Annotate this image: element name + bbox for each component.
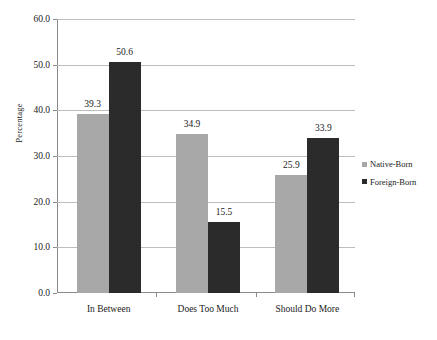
y-tick-mark (53, 293, 57, 294)
x-tick-mark (156, 293, 157, 297)
bar-value-label: 25.9 (283, 160, 300, 170)
gridline (57, 110, 355, 111)
x-tick-mark (354, 293, 355, 297)
bar-foreign-born (109, 62, 141, 293)
y-tick-label: 60.0 (33, 14, 50, 24)
y-tick-label: 20.0 (33, 197, 50, 207)
y-tick-label: 40.0 (33, 105, 50, 115)
chart-legend: Native-BornForeign-Born (362, 160, 416, 195)
x-axis-category-label: Does Too Much (178, 304, 239, 314)
y-tick-mark (53, 19, 57, 20)
bar-value-label: 50.6 (116, 47, 133, 57)
gridline (57, 19, 355, 20)
bar-value-label: 15.5 (216, 207, 233, 217)
bar-native-born (275, 175, 307, 293)
y-tick-label: 50.0 (33, 60, 50, 70)
bar-value-label: 33.9 (315, 123, 332, 133)
bar-value-label: 39.3 (84, 99, 101, 109)
bar-foreign-born (208, 222, 240, 293)
x-tick-mark (256, 293, 257, 297)
legend-square-marker (362, 179, 367, 184)
legend-label: Foreign-Born (370, 178, 416, 187)
bar-native-born (176, 134, 208, 293)
gridline (57, 65, 355, 66)
bar-chart: Percentage 0.010.020.030.040.050.060.0 3… (0, 0, 437, 340)
legend-label: Native-Born (370, 160, 413, 169)
y-axis-title: Percentage (14, 78, 24, 168)
y-tick-mark (53, 202, 57, 203)
x-axis-category-label: Should Do More (275, 304, 339, 314)
y-tick-mark (53, 65, 57, 66)
y-tick-mark (53, 110, 57, 111)
y-tick-label: 10.0 (33, 242, 50, 252)
bar-native-born (77, 114, 109, 293)
x-axis-category-label: In Between (87, 304, 131, 314)
y-tick-mark (53, 156, 57, 157)
y-tick-mark (53, 247, 57, 248)
y-tick-label: 0.0 (38, 288, 50, 298)
legend-entry: Native-Born (362, 160, 416, 169)
plot-area: 0.010.020.030.040.050.060.0 39.350.634.9… (57, 19, 355, 293)
legend-square-marker (362, 162, 367, 167)
y-tick-label: 30.0 (33, 151, 50, 161)
bar-foreign-born (307, 138, 339, 293)
legend-entry: Foreign-Born (362, 178, 416, 187)
bar-value-label: 34.9 (184, 119, 201, 129)
